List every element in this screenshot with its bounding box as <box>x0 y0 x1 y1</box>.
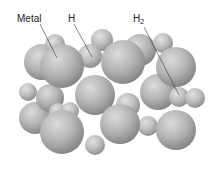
label-metal: Metal <box>17 14 41 24</box>
h2-atom-b <box>185 88 205 108</box>
label-hydrogen: H <box>68 14 75 24</box>
metal-hydride-lattice-diagram <box>0 0 212 170</box>
bottom-layer-atoms <box>40 104 196 155</box>
label-h2-subscript: 2 <box>140 18 144 25</box>
top-layer-atoms <box>40 40 196 88</box>
metal-atom <box>40 44 84 88</box>
label-h2: H2 <box>133 14 144 25</box>
